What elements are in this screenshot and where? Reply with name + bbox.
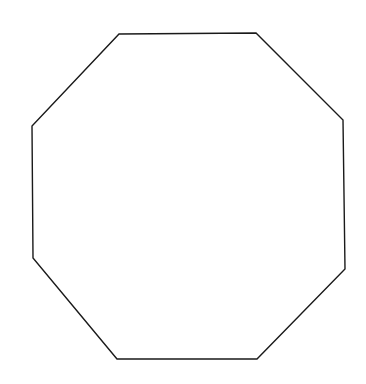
octagon-diagram [0, 0, 366, 384]
background [0, 0, 366, 384]
